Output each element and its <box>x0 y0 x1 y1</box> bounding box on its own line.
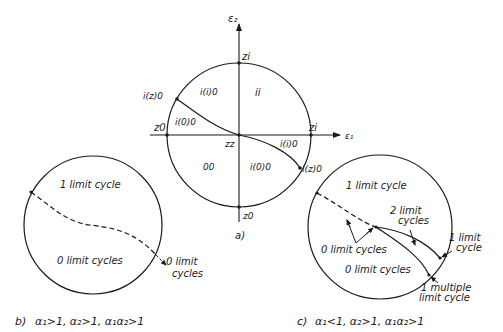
point-right <box>309 133 313 137</box>
panel-c-arrow-label: 0 limit cycles <box>321 244 387 255</box>
panel-c-arrow-tip-right <box>366 228 373 234</box>
panel-b-outside-label-2: cycles <box>172 268 203 279</box>
caption-b: b) <box>15 315 26 328</box>
label-origin-zz: zz <box>224 139 235 149</box>
panel-b-point-left <box>29 190 32 193</box>
bifurcation-diagram: ε₂ ε₁ zi zi z0 z0 zz i(z)0 i(z)0 i(i)0 i… <box>0 0 503 332</box>
panel-b-upper-region: 1 limit cycle <box>60 179 121 190</box>
panel-b-dashed-boundary <box>31 192 156 255</box>
point-bottom <box>237 205 241 209</box>
label-bottom-z0: z0 <box>242 211 254 221</box>
caption-a: a) <box>235 230 245 241</box>
panel-c-point-left <box>315 191 318 194</box>
point-origin <box>237 133 241 137</box>
panel-c-condition: α₁<1, α₂>1, α₁α₂>1 <box>315 315 424 328</box>
panel-c-dashed-boundary <box>317 193 376 227</box>
region-left-wedge: i(0)0 <box>175 117 196 127</box>
label-top-zi: zi <box>241 51 250 62</box>
panel-c-point-bottom <box>427 273 430 276</box>
caption-c: c) <box>297 315 307 328</box>
region-upper-left: i(i)0 <box>200 87 218 97</box>
point-top <box>237 61 241 65</box>
region-lower-left: 00 <box>203 162 215 172</box>
panel-b-condition: α₁>1, α₂>1, α₁α₂>1 <box>35 315 144 328</box>
panel-b-outside-label-1: 0 limit <box>166 256 199 267</box>
region-upper-right: ii <box>255 87 261 98</box>
label-lower-right-iz0: i(z)0 <box>302 164 322 174</box>
panel-c-middle-label-2: cycles <box>398 215 429 226</box>
panel-b-circle <box>24 156 162 294</box>
panel-c-two-cycles-arrow <box>410 230 415 245</box>
panel-b-outside-arrow <box>156 255 166 265</box>
panel-b-lower-region: 0 limit cycles <box>57 255 123 266</box>
panel-c-arrow-tip-left <box>347 220 350 227</box>
label-upper-left-iz0: i(z)0 <box>143 91 163 101</box>
epsilon2-label: ε₂ <box>228 13 237 24</box>
panel-c: 1 limit cycle 2 limit cycles 0 limit cyc… <box>297 155 482 328</box>
panel-c-point-right <box>438 256 441 259</box>
panel-b: 1 limit cycle 0 limit cycles 0 limit cyc… <box>15 156 203 328</box>
point-upper-left <box>175 97 179 101</box>
label-right-zi: zi <box>308 122 317 133</box>
panel-c-upper-region: 1 limit cycle <box>346 180 407 191</box>
panel-c-bottom-label-2: limit cycle <box>419 292 470 303</box>
label-left-z0: z0 <box>153 122 166 133</box>
panel-c-point-cusp <box>374 225 377 228</box>
point-left <box>165 133 169 137</box>
region-right-wedge: i(i)0 <box>280 139 298 149</box>
panel-c-lower-region: 0 limit cycles <box>345 264 411 275</box>
region-lower-right: i(0)0 <box>250 162 271 172</box>
panel-a: ε₂ ε₁ zi zi z0 z0 zz i(z)0 i(z)0 i(i)0 i… <box>143 13 354 241</box>
panel-c-right-label-2: cycle <box>456 242 482 253</box>
epsilon1-label: ε₁ <box>345 131 354 141</box>
